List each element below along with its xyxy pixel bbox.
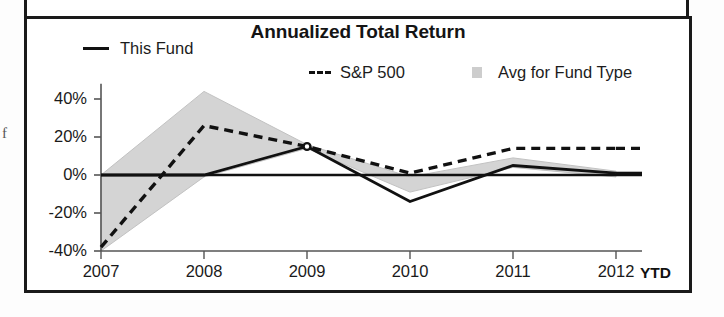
- y-axis-tick-label: -20%: [31, 203, 87, 222]
- x-axis-ytd-label: YTD: [640, 264, 671, 282]
- scanned-page-background: f Annualized Total Return This Fund S&P …: [0, 0, 724, 317]
- annualized-total-return-chart-panel: Annualized Total Return This Fund S&P 50…: [24, 16, 692, 293]
- margin-ink-fragment: f: [2, 126, 11, 141]
- x-axis-tick-label: 2011: [478, 262, 548, 281]
- x-axis-tick-label: 2008: [169, 262, 239, 281]
- plot-area: 40%20%0%-20%-40% 20072008200920102011201…: [27, 19, 695, 296]
- y-axis-tick-label: 20%: [31, 127, 87, 146]
- y-axis-tick-label: -40%: [31, 241, 87, 260]
- x-axis-tick-label: 2010: [375, 262, 445, 281]
- y-axis-tick-label: 0%: [31, 165, 87, 184]
- y-axis-tick-label: 40%: [31, 89, 87, 108]
- x-axis-tick-label: 2007: [66, 262, 136, 281]
- x-axis-tick-label: 2009: [272, 262, 342, 281]
- chart-plot-svg: [27, 19, 695, 296]
